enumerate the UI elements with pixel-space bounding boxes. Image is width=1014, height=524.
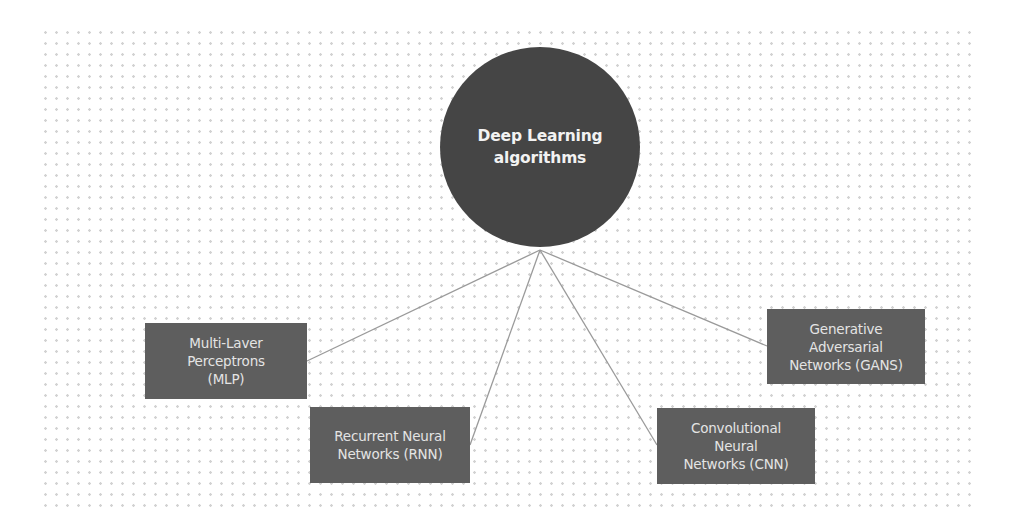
node-recurrent-neural-networks: Recurrent Neural Networks (RNN)	[310, 407, 470, 483]
hub-label-line-1: Deep Learning	[478, 125, 603, 147]
node-label-line: (MLP)	[208, 370, 245, 388]
node-label-line: Networks (GANS)	[789, 356, 903, 374]
node-label-line: Perceptrons	[187, 352, 265, 370]
node-label-line: Adversarial	[809, 338, 883, 356]
connector-hub-rnn	[470, 250, 540, 445]
node-label-line: Multi-Laver	[189, 334, 262, 352]
hub-label-line-2: algorithms	[494, 147, 586, 169]
node-label-line: Generative	[810, 320, 883, 338]
node-generative-adversarial-networks: Generative Adversarial Networks (GANS)	[767, 309, 925, 384]
node-label-line: Networks (CNN)	[683, 455, 788, 473]
node-label-line: Convolutional	[691, 419, 781, 437]
node-convolutional-neural-networks: Convolutional Neural Networks (CNN)	[657, 408, 815, 484]
hub-deep-learning-algorithms: Deep Learning algorithms	[440, 47, 640, 247]
node-multi-layer-perceptrons: Multi-Laver Perceptrons (MLP)	[145, 323, 307, 399]
connector-hub-gans	[540, 250, 767, 346]
connector-hub-cnn	[540, 250, 657, 445]
node-label-line: Networks (RNN)	[337, 445, 442, 463]
connector-hub-mlp	[307, 250, 540, 361]
node-label-line: Recurrent Neural	[334, 427, 445, 445]
node-label-line: Neural	[714, 437, 757, 455]
